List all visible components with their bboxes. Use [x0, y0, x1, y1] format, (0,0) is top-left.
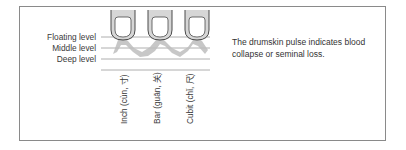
finger-icon-bar — [148, 10, 172, 40]
caption-text: The drumskin pulse indicates blood colla… — [232, 37, 382, 60]
pulse-diagram — [0, 0, 406, 150]
position-label-cubit: Cubit (chǐ, 尺) — [185, 74, 195, 124]
finger-icon-cubit — [185, 10, 209, 40]
finger-icon-inch — [111, 10, 135, 40]
position-label-inch: Inch (cùn, 寸) — [119, 74, 129, 124]
position-label-bar: Bar (guān, 关) — [152, 72, 162, 124]
